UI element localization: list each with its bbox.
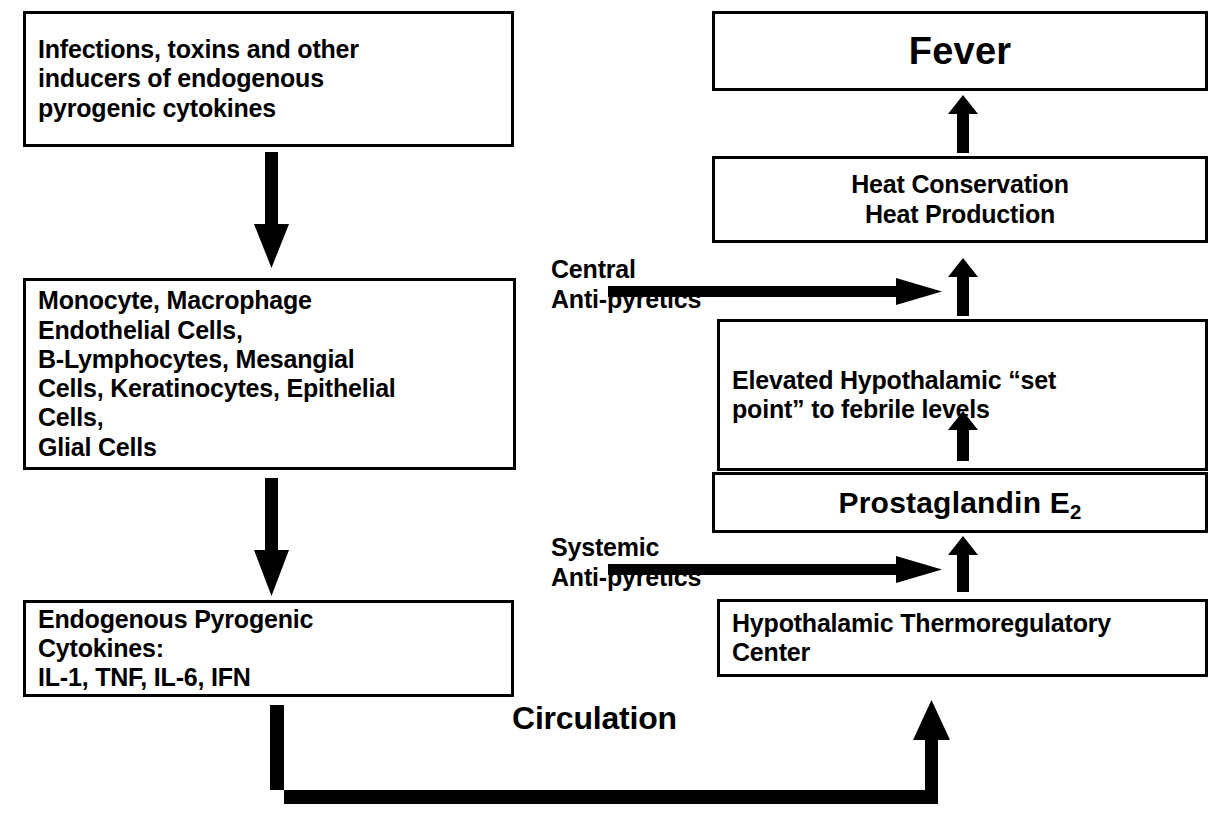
node-prostaglandin-text: Prostaglandin E xyxy=(839,486,1070,519)
node-producing-cells-label: Monocyte, Macrophage Endothelial Cells, … xyxy=(38,286,513,462)
node-thermoregulatory-center: Hypothalamic Thermoregulatory Center xyxy=(717,599,1208,677)
label-circulation: Circulation xyxy=(512,700,677,737)
node-prostaglandin-label: Prostaglandin E2 xyxy=(715,485,1205,520)
arrow-inducers-to-cells xyxy=(252,152,292,270)
arrow-central-antipyretics xyxy=(608,278,943,306)
node-heat-label: Heat Conservation Heat Production xyxy=(715,170,1205,229)
node-heat: Heat Conservation Heat Production xyxy=(712,156,1208,243)
node-prostaglandin: Prostaglandin E2 xyxy=(712,472,1208,533)
node-inducers: Infections, toxins and other inducers of… xyxy=(23,11,514,147)
node-inducers-label: Infections, toxins and other inducers of… xyxy=(38,35,511,123)
diagram-canvas: Infections, toxins and other inducers of… xyxy=(0,0,1223,824)
node-thermoregulatory-center-label: Hypothalamic Thermoregulatory Center xyxy=(732,609,1197,668)
node-producing-cells: Monocyte, Macrophage Endothelial Cells, … xyxy=(23,278,516,470)
node-endogenous-pyrogens-label: Endogenous Pyrogenic Cytokines: IL-1, TN… xyxy=(38,605,511,693)
node-fever: Fever xyxy=(712,11,1208,91)
node-fever-label: Fever xyxy=(715,29,1205,73)
arrow-systemic-antipyretics xyxy=(608,556,943,584)
arrow-center-to-prostaglandin xyxy=(945,536,981,594)
node-prostaglandin-subscript: 2 xyxy=(1070,501,1082,523)
node-endogenous-pyrogens: Endogenous Pyrogenic Cytokines: IL-1, TN… xyxy=(23,600,514,697)
arrow-heat-to-fever xyxy=(945,95,981,155)
arrow-cells-to-pyrogens xyxy=(252,478,292,598)
arrow-setpoint-to-heat xyxy=(945,258,981,318)
arrow-prostaglandin-to-setpoint xyxy=(945,411,981,463)
